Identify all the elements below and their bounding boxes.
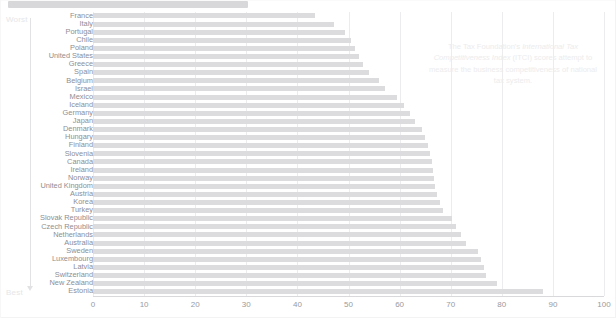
bar: [93, 119, 415, 124]
bar-row: [93, 150, 604, 158]
bar: [93, 22, 334, 27]
bar: [93, 70, 369, 75]
annotation-text-4: competitiveness of national tax system.: [494, 65, 597, 85]
bar: [93, 62, 363, 67]
annotation-emphasis-1: International Tax: [522, 42, 578, 51]
bar: [93, 241, 466, 246]
bar: [93, 13, 315, 18]
bar: [93, 86, 385, 91]
x-tick-label: 90: [548, 300, 557, 309]
bar: [93, 273, 486, 278]
arrow-line: [30, 18, 31, 288]
bar-row: [93, 93, 604, 101]
x-tick-label: 40: [293, 300, 302, 309]
bar: [93, 151, 430, 156]
bar: [93, 184, 435, 189]
rank-direction-arrow: [30, 18, 32, 288]
bar: [93, 265, 484, 270]
bar: [93, 216, 452, 221]
bar-row: [93, 255, 604, 263]
bar: [93, 111, 410, 116]
gridline: [604, 12, 605, 296]
bar: [93, 281, 497, 286]
bar-row: [93, 126, 604, 134]
bar: [93, 159, 432, 164]
x-tick-label: 60: [395, 300, 404, 309]
bar: [93, 232, 461, 237]
bar: [93, 46, 355, 51]
bar-row: [93, 264, 604, 272]
bar-row: [93, 109, 604, 117]
bar-row: [93, 280, 604, 288]
bar: [93, 143, 428, 148]
bar: [93, 224, 456, 229]
bar-row: [93, 231, 604, 239]
bar-row: [93, 239, 604, 247]
bar-row: [93, 207, 604, 215]
x-tick-label: 20: [191, 300, 200, 309]
x-tick-label: 70: [446, 300, 455, 309]
arrow-head-icon: [27, 286, 33, 291]
bar-row: [93, 191, 604, 199]
title-placeholder-block: [8, 1, 248, 8]
annotation-text-1: The Tax Foundation's: [448, 42, 522, 51]
bar: [93, 249, 478, 254]
x-axis-line: [93, 296, 604, 297]
bar: [93, 127, 422, 132]
bar-row: [93, 166, 604, 174]
page-edge-left: [0, 0, 1, 318]
x-tick-label: 0: [91, 300, 95, 309]
bar: [93, 192, 437, 197]
bar-row: [93, 12, 604, 20]
bar-row: [93, 272, 604, 280]
bar: [93, 95, 397, 100]
category-label: Estonia: [68, 287, 93, 295]
x-tick-label: 100: [597, 300, 610, 309]
bar-row: [93, 101, 604, 109]
bar-row: [93, 158, 604, 166]
x-tick-label: 30: [242, 300, 251, 309]
bar-row: [93, 28, 604, 36]
bar: [93, 289, 543, 294]
bar-row: [93, 174, 604, 182]
bar-row: [93, 223, 604, 231]
x-tick-label: 80: [497, 300, 506, 309]
bar-row: [93, 199, 604, 207]
bar-row: [93, 117, 604, 125]
best-label: Best: [6, 288, 23, 297]
bar: [93, 103, 404, 108]
bar-row: [93, 247, 604, 255]
bar: [93, 30, 345, 35]
bar: [93, 135, 425, 140]
worst-label: Worst: [6, 15, 28, 24]
chart-annotation: The Tax Foundation's International Tax C…: [424, 41, 602, 87]
x-tick-label: 50: [344, 300, 353, 309]
bar-row: [93, 134, 604, 142]
bar: [93, 257, 481, 262]
bar: [93, 168, 433, 173]
bar-row: [93, 215, 604, 223]
bar-row: [93, 182, 604, 190]
bar: [93, 38, 351, 43]
bar: [93, 54, 359, 59]
bar-row: [93, 142, 604, 150]
annotation-emphasis-2: Competitiveness Index: [434, 53, 511, 62]
annotation-text-2: (ITCI) scores: [510, 53, 556, 62]
bar: [93, 78, 379, 83]
bar: [93, 200, 440, 205]
bar: [93, 208, 443, 213]
chart-page: Worst Best 0102030405060708090100 France…: [0, 0, 616, 318]
bar: [93, 176, 434, 181]
x-tick-label: 10: [140, 300, 149, 309]
bar-row: [93, 288, 604, 296]
bar-row: [93, 20, 604, 28]
